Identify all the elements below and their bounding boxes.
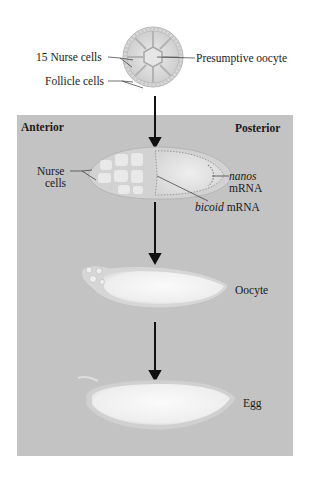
label-cells-text: cells <box>45 177 66 189</box>
label-follicle-cells: Follicle cells <box>45 75 104 87</box>
egg-shape <box>78 377 236 430</box>
nanos-gene-name: nanos <box>229 170 256 182</box>
egg-chamber-elongated <box>70 147 232 201</box>
label-nanos: nanos <box>229 170 256 182</box>
label-15-nurse-cells: 15 Nurse cells <box>36 51 102 63</box>
label-egg: Egg <box>243 397 262 409</box>
label-oocyte: Oocyte <box>235 284 268 296</box>
bicoid-gene-name: bicoid <box>195 201 224 213</box>
label-nurse: Nurse <box>37 165 64 177</box>
arrows <box>150 96 160 380</box>
label-anterior: Anterior <box>21 121 64 133</box>
label-presumptive-oocyte: Presumptive oocyte <box>196 52 287 64</box>
label-nanos-mrna: mRNA <box>229 182 262 194</box>
label-posterior: Posterior <box>235 122 280 134</box>
label-bicoid-mrna: bicoid mRNA <box>195 201 260 213</box>
egg-chamber-round <box>108 27 195 88</box>
bicoid-suffix: mRNA <box>224 201 260 213</box>
oocyte-shape <box>81 266 228 308</box>
